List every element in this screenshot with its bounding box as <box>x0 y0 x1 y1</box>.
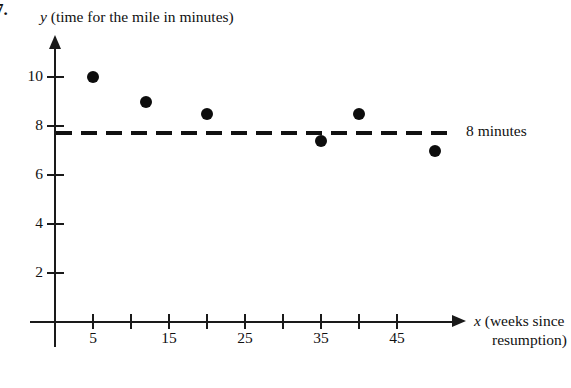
x-axis-arrow-icon <box>452 315 466 327</box>
x-axis-symbol: x <box>474 312 481 329</box>
x-tick-label-15: 15 <box>149 329 189 347</box>
x-tick-30 <box>282 314 284 329</box>
y-axis-arrow-icon <box>49 35 61 49</box>
y-axis-caption: y (time for the mile in minutes) <box>40 8 234 26</box>
data-point-5 <box>353 108 365 120</box>
x-tick-10 <box>130 314 132 329</box>
reference-line-8-minutes <box>56 131 456 135</box>
y-axis-symbol: y <box>40 8 47 25</box>
y-tick-10 <box>47 76 64 78</box>
x-tick-40 <box>358 314 360 329</box>
y-tick-2 <box>47 272 64 274</box>
x-tick-label-45: 45 <box>377 329 417 347</box>
y-tick-label-2: 2 <box>13 263 43 281</box>
data-point-4 <box>315 135 327 147</box>
x-axis-caption-line1: (weeks since <box>481 312 565 329</box>
y-tick-label-10: 10 <box>13 67 43 85</box>
x-tick-label-35: 35 <box>301 329 341 347</box>
data-point-6 <box>429 145 441 157</box>
x-tick-label-5: 5 <box>73 329 113 347</box>
y-tick-6 <box>47 174 64 176</box>
problem-number: 7. <box>0 0 8 20</box>
x-tick-15 <box>168 314 170 329</box>
data-point-3 <box>201 108 213 120</box>
reference-line-label: 8 minutes <box>466 122 527 140</box>
data-point-2 <box>140 96 152 108</box>
x-tick-5 <box>92 314 94 329</box>
y-tick-label-8: 8 <box>13 116 43 134</box>
x-axis-caption: x (weeks since resumption) <box>474 311 571 349</box>
x-tick-20 <box>206 314 208 329</box>
y-tick-8 <box>47 125 64 127</box>
x-tick-label-25: 25 <box>225 329 265 347</box>
x-tick-45 <box>396 314 398 329</box>
x-axis-caption-line2: resumption) <box>474 330 571 349</box>
x-tick-25 <box>244 314 246 329</box>
y-tick-label-6: 6 <box>13 165 43 183</box>
y-axis-caption-text: (time for the mile in minutes) <box>47 8 234 25</box>
x-tick-35 <box>320 314 322 329</box>
data-point-1 <box>87 71 99 83</box>
y-tick-label-4: 4 <box>13 214 43 232</box>
y-tick-4 <box>47 223 64 225</box>
y-axis-line <box>54 47 56 347</box>
